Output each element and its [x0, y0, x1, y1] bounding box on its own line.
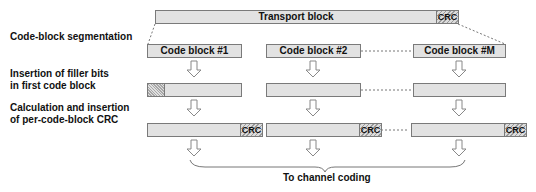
- code-block-m-row2: [413, 83, 506, 97]
- filler-bits: [148, 84, 165, 96]
- code-block-1-with-filler: [147, 83, 242, 97]
- code-block-m: Code block #M: [413, 44, 506, 58]
- split-line-left: [148, 24, 155, 44]
- transport-block-crc: CRC: [436, 11, 458, 23]
- code-block-2-crc: CRC: [359, 124, 381, 136]
- transport-block-label: Transport block: [156, 11, 436, 23]
- code-block-1-with-crc: CRC: [147, 123, 263, 137]
- transport-block: Transport block CRC: [155, 10, 459, 24]
- code-block-1-crc: CRC: [240, 124, 262, 136]
- code-block-2-with-crc: CRC: [266, 123, 382, 137]
- code-block-2-row2: [266, 83, 361, 97]
- brace: [190, 160, 465, 172]
- code-block-1: Code block #1: [147, 44, 242, 58]
- arrow-down-icons: [187, 61, 466, 156]
- code-block-2: Code block #2: [266, 44, 361, 58]
- split-line-right: [458, 24, 505, 44]
- code-block-m-with-crc: CRC: [411, 123, 527, 137]
- output-label: To channel coding: [283, 172, 371, 183]
- code-block-m-crc: CRC: [504, 124, 526, 136]
